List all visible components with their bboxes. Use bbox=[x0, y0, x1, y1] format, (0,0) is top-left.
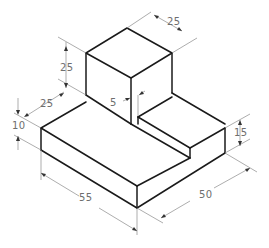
isometric-drawing bbox=[0, 0, 269, 248]
dimension-lines bbox=[14, 12, 257, 235]
dimension-label-cube-width: 25 bbox=[40, 99, 53, 109]
dimension-label-base-length: 55 bbox=[79, 193, 92, 203]
object-edges bbox=[41, 28, 225, 208]
dimension-label-base-width: 50 bbox=[199, 190, 212, 200]
dimension-label-cube-depth: 25 bbox=[167, 17, 180, 27]
dimension-label-step-offset: 5 bbox=[110, 98, 117, 108]
dimension-label-cube-height: 25 bbox=[60, 63, 73, 73]
dimension-label-base-height: 10 bbox=[12, 121, 25, 131]
dimension-label-step-height: 15 bbox=[234, 128, 247, 138]
